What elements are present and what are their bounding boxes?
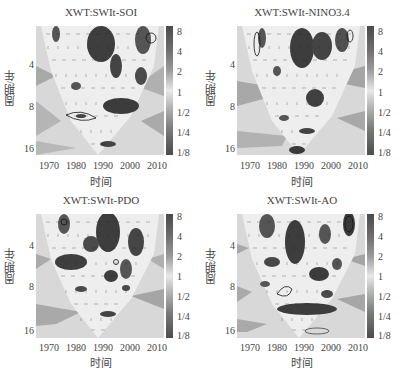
colorbar bbox=[166, 26, 173, 155]
x-tick: 2010 bbox=[143, 161, 171, 171]
x-axis-label: 时间 bbox=[287, 354, 317, 370]
colorbar-tick: 1/8 bbox=[378, 331, 391, 341]
x-tick: 1980 bbox=[263, 161, 291, 171]
panel-title: XWT:SWIt-SOI bbox=[36, 6, 166, 18]
x-tick: 1980 bbox=[62, 161, 90, 171]
y-axis-label: 周期/年 bbox=[2, 70, 16, 106]
colorbar-tick: 1/8 bbox=[177, 148, 190, 158]
y-tick: 16 bbox=[221, 144, 235, 154]
colorbar-tick: 1/4 bbox=[378, 312, 391, 322]
panel-swit-soi: XWT:SWIt-SOI bbox=[0, 0, 202, 190]
colorbar-tick: 1 bbox=[378, 272, 383, 282]
colorbar-tick: 4 bbox=[177, 232, 182, 242]
x-axis-label: 时间 bbox=[86, 354, 116, 370]
colorbar-tick: 1/2 bbox=[177, 108, 190, 118]
wavelet-heatmap bbox=[36, 214, 164, 338]
panel-title: XWT:SWIt-AO bbox=[237, 194, 367, 206]
panel-title: XWT:SWIt-NINO3.4 bbox=[237, 6, 367, 18]
colorbar-tick: 2 bbox=[177, 252, 182, 262]
colorbar-tick: 1 bbox=[177, 272, 182, 282]
x-tick: 1970 bbox=[35, 343, 63, 353]
colorbar-tick: 1/2 bbox=[177, 292, 190, 302]
colorbar-tick: 4 bbox=[378, 232, 383, 242]
colorbar bbox=[367, 214, 374, 338]
colorbar-tick: 2 bbox=[378, 252, 383, 262]
y-tick: 4 bbox=[20, 60, 34, 70]
x-axis-label: 时间 bbox=[86, 173, 116, 189]
y-tick: 8 bbox=[20, 282, 34, 292]
x-tick: 1990 bbox=[290, 343, 318, 353]
x-tick: 1980 bbox=[62, 343, 90, 353]
colorbar-tick: 1/8 bbox=[378, 148, 391, 158]
y-tick: 4 bbox=[20, 241, 34, 251]
y-tick: 16 bbox=[20, 144, 34, 154]
x-tick: 2000 bbox=[317, 161, 345, 171]
colorbar-tick: 4 bbox=[177, 47, 182, 57]
x-tick: 2000 bbox=[317, 343, 345, 353]
y-axis-label: 周期/年 bbox=[203, 70, 217, 106]
x-tick: 1990 bbox=[89, 343, 117, 353]
wavelet-heatmap bbox=[237, 214, 365, 338]
x-tick: 2000 bbox=[116, 343, 144, 353]
wavelet-plot bbox=[237, 26, 365, 155]
colorbar-tick: 1/2 bbox=[378, 108, 391, 118]
x-tick: 2010 bbox=[143, 343, 171, 353]
panel-title: XWT:SWIt-PDO bbox=[36, 194, 166, 206]
colorbar-tick: 1 bbox=[177, 88, 182, 98]
wavelet-heatmap bbox=[237, 26, 365, 155]
colorbar-tick: 2 bbox=[378, 67, 383, 77]
colorbar-tick: 1/4 bbox=[378, 128, 391, 138]
y-tick: 4 bbox=[221, 241, 235, 251]
x-tick: 1970 bbox=[35, 161, 63, 171]
y-axis-label: 周期/年 bbox=[203, 248, 217, 284]
panel-swit-ao: XWT:SWIt-AO bbox=[201, 188, 403, 378]
panel-swit-pdo: XWT:SWIt-PDO bbox=[0, 188, 202, 378]
colorbar-tick: 2 bbox=[177, 67, 182, 77]
wavelet-plot bbox=[36, 214, 164, 338]
x-tick: 2000 bbox=[116, 161, 144, 171]
colorbar bbox=[367, 26, 374, 155]
colorbar-tick: 1/4 bbox=[177, 312, 190, 322]
x-tick: 1990 bbox=[290, 161, 318, 171]
x-tick: 2010 bbox=[344, 161, 372, 171]
colorbar-tick: 8 bbox=[378, 212, 383, 222]
y-tick: 16 bbox=[20, 326, 34, 336]
colorbar bbox=[166, 214, 173, 338]
faded-caption bbox=[150, 369, 380, 375]
panel-swit-nino34: XWT:SWIt-NINO3.4 bbox=[201, 0, 403, 190]
x-tick: 1990 bbox=[89, 161, 117, 171]
colorbar-tick: 1 bbox=[378, 88, 383, 98]
colorbar-tick: 8 bbox=[177, 212, 182, 222]
wavelet-heatmap bbox=[36, 26, 164, 155]
y-tick: 8 bbox=[221, 282, 235, 292]
x-tick: 1970 bbox=[236, 161, 264, 171]
colorbar-tick: 8 bbox=[378, 27, 383, 37]
colorbar-tick: 1/8 bbox=[177, 331, 190, 341]
colorbar-tick: 4 bbox=[378, 47, 383, 57]
x-tick: 2010 bbox=[344, 343, 372, 353]
y-tick: 8 bbox=[20, 102, 34, 112]
wavelet-plot bbox=[237, 214, 365, 338]
y-tick: 16 bbox=[221, 326, 235, 336]
x-axis-label: 时间 bbox=[287, 173, 317, 189]
y-tick: 8 bbox=[221, 102, 235, 112]
colorbar-tick: 1/4 bbox=[177, 128, 190, 138]
y-axis-label: 周期/年 bbox=[2, 248, 16, 284]
colorbar-tick: 1/2 bbox=[378, 292, 391, 302]
colorbar-tick: 8 bbox=[177, 27, 182, 37]
y-tick: 4 bbox=[221, 60, 235, 70]
wavelet-plot bbox=[36, 26, 164, 155]
x-tick: 1980 bbox=[263, 343, 291, 353]
x-tick: 1970 bbox=[236, 343, 264, 353]
